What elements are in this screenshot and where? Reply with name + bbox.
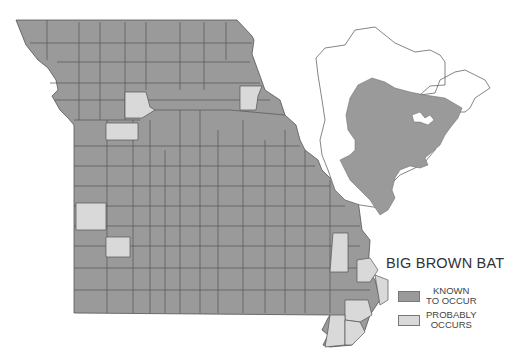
north-america-inset (316, 27, 490, 215)
county-probable (106, 123, 138, 140)
legend-known: KNOWN TO OCCUR (398, 286, 477, 306)
legend-probable-line2: OCCURS (426, 320, 477, 330)
legend-swatch-known (398, 291, 420, 302)
legend-swatch-probable (398, 315, 420, 326)
legend-known-line2: TO OCCUR (426, 296, 477, 306)
legend-probable: PROBABLY OCCURS (398, 310, 477, 330)
county-probable (106, 237, 130, 257)
map-title: BIG BROWN BAT (386, 255, 504, 271)
county-probable (357, 258, 378, 282)
county-probable (76, 203, 106, 230)
county-probable (330, 233, 348, 272)
